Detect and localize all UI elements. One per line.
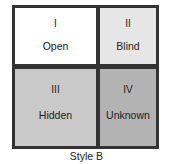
diagram-caption: Style B [0,150,173,162]
quadrant-label: Hidden [15,109,96,121]
quadrant-hidden: III Hidden [15,69,96,146]
quadrant-numeral: I [15,18,96,29]
quadrant-numeral: III [15,84,96,95]
quadrant-label: Open [15,40,96,52]
quadrant-blind: II Blind [100,8,156,64]
johari-window-grid: I Open II Blind III Hidden IV Unknown [12,5,159,149]
quadrant-unknown: IV Unknown [100,69,156,146]
quadrant-numeral: IV [100,84,156,95]
quadrant-open: I Open [15,8,96,64]
quadrant-label: Blind [100,40,156,52]
quadrant-label: Unknown [100,109,156,121]
quadrant-numeral: II [100,18,156,29]
